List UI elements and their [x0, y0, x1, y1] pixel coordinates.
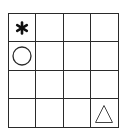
cell-r2-c2: [36, 42, 63, 70]
cell-r3-c1: [9, 71, 36, 99]
cell-r1-c3: [64, 14, 91, 42]
asterisk-icon: [15, 21, 29, 35]
cell-r3-c4: [91, 71, 118, 99]
cell-r4-c1: [9, 99, 36, 127]
cell-r1-c2: [36, 14, 63, 42]
cell-r4-c4: [91, 99, 118, 127]
cell-r2-c4: [91, 42, 118, 70]
cell-r1-c1: [9, 14, 36, 42]
cell-r1-c4: [91, 14, 118, 42]
grid-board: [8, 13, 119, 128]
cell-r2-c3: [64, 42, 91, 70]
cell-r3-c2: [36, 71, 63, 99]
circle-icon: [11, 45, 33, 67]
cell-r2-c1: [9, 42, 36, 70]
cell-r3-c3: [64, 71, 91, 99]
cell-r4-c2: [36, 99, 63, 127]
cell-r4-c3: [64, 99, 91, 127]
triangle-icon: [94, 104, 114, 124]
